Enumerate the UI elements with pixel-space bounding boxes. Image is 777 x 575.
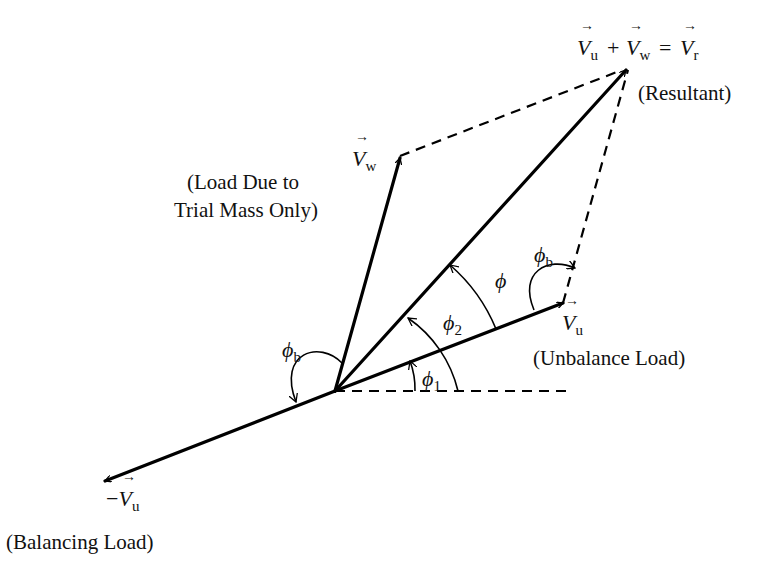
vw-description-line2: Trial Mass Only) bbox=[174, 198, 318, 222]
angle-phi2-label: ϕ2 bbox=[443, 310, 462, 338]
svg-text:→: → bbox=[355, 129, 369, 144]
neg-vu-description: (Balancing Load) bbox=[6, 530, 154, 554]
svg-text:Vr: Vr bbox=[680, 35, 698, 63]
svg-text:Vw: Vw bbox=[352, 146, 376, 174]
angle-phi-label: ϕ bbox=[495, 268, 506, 293]
svg-text:Vu: Vu bbox=[562, 310, 583, 338]
angle-phib-origin-label: ϕb bbox=[282, 337, 301, 365]
vu-label: Vu → bbox=[562, 293, 583, 338]
svg-text:→: → bbox=[122, 469, 136, 484]
angle-phib-tip-label: ϕb bbox=[534, 242, 553, 270]
angle-phi1-label: ϕ1 bbox=[422, 366, 441, 394]
svg-text:→: → bbox=[565, 293, 579, 308]
vw-description-line1: (Load Due to bbox=[187, 170, 299, 194]
vu-description: (Unbalance Load) bbox=[533, 346, 685, 370]
svg-text:→: → bbox=[683, 18, 697, 33]
svg-text:→: → bbox=[629, 18, 643, 33]
svg-text:−Vu: −Vu bbox=[106, 486, 140, 514]
svg-text:Vw: Vw bbox=[626, 35, 650, 63]
svg-text:Vu: Vu bbox=[577, 35, 598, 63]
resultant-description: (Resultant) bbox=[638, 81, 731, 105]
svg-text:→: → bbox=[580, 18, 594, 33]
svg-text:+: + bbox=[607, 35, 619, 60]
angle-phi1-arc bbox=[410, 361, 415, 391]
resultant-equation-label: Vu + Vw = Vr → → → bbox=[577, 18, 698, 63]
neg-vu-label: −Vu → bbox=[106, 469, 140, 514]
vw-label: Vw → bbox=[352, 129, 376, 174]
vector-neg-vu-arrow bbox=[105, 391, 335, 481]
angle-phi-arc bbox=[450, 265, 496, 329]
svg-text:=: = bbox=[659, 35, 671, 60]
vector-diagram: Vu + Vw = Vr → → → (Resultant) Vw → (Loa… bbox=[0, 0, 777, 575]
